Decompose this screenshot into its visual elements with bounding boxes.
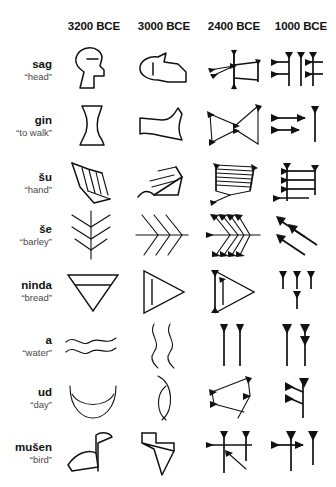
sign-shu-3000bce	[128, 155, 200, 211]
row-term: a	[46, 334, 52, 347]
row-label-ud: ud “day”	[0, 370, 54, 426]
row-term: šu	[39, 171, 52, 184]
sign-sag-3200bce	[58, 42, 130, 98]
sign-ninda-3000bce	[128, 263, 200, 319]
sign-shu-1000bce	[265, 155, 336, 211]
sign-gin-2400bce	[198, 98, 270, 154]
sign-a-3000bce	[128, 318, 200, 374]
column-header-3200-bce: 3200 BCE	[58, 20, 130, 32]
row-gloss: “barley”	[20, 236, 52, 248]
row-gloss: “to walk”	[16, 127, 52, 139]
sign-gin-3000bce	[128, 98, 200, 154]
row-term: mušen	[15, 441, 52, 454]
sign-musen-3200bce	[58, 425, 130, 481]
sign-a-3200bce	[58, 318, 130, 374]
table-row: še “barley”	[0, 207, 336, 263]
row-gloss: “bird”	[30, 454, 52, 466]
row-term: sag	[32, 58, 52, 71]
table-row: sag “head”	[0, 42, 336, 98]
sign-sag-2400bce	[198, 42, 270, 98]
sign-she-3000bce	[128, 207, 200, 263]
sign-ud-1000bce	[265, 370, 336, 426]
sign-ninda-1000bce	[265, 263, 336, 319]
sign-a-1000bce	[265, 318, 336, 374]
row-gloss: “head”	[25, 71, 52, 83]
row-gloss: “water”	[22, 347, 52, 359]
sign-sag-3000bce	[128, 42, 200, 98]
row-gloss: “hand”	[25, 184, 52, 196]
sign-musen-2400bce	[198, 425, 270, 481]
sign-gin-1000bce	[265, 98, 336, 154]
table-row: ninda “bread”	[0, 263, 336, 319]
row-label-ninda: ninda “bread”	[0, 263, 54, 319]
sign-a-2400bce	[198, 318, 270, 374]
row-gloss: “bread”	[21, 292, 52, 304]
table-row: gin “to walk”	[0, 98, 336, 154]
row-label-she: še “barley”	[0, 207, 54, 263]
row-label-shu: šu “hand”	[0, 155, 54, 211]
sign-she-2400bce	[198, 207, 270, 263]
column-header-2400-bce: 2400 BCE	[198, 20, 270, 32]
cuneiform-evolution-table: 3200 BCE 3000 BCE 2400 BCE 1000 BCE sag …	[0, 0, 336, 487]
sign-ud-3200bce	[58, 370, 130, 426]
sign-shu-3200bce	[58, 155, 130, 211]
row-label-sag: sag “head”	[0, 42, 54, 98]
sign-ud-2400bce	[198, 370, 270, 426]
sign-shu-2400bce	[198, 155, 270, 211]
row-label-a: a “water”	[0, 318, 54, 374]
sign-ninda-2400bce	[198, 263, 270, 319]
sign-gin-3200bce	[58, 98, 130, 154]
sign-she-1000bce	[265, 207, 336, 263]
table-row: ud “day”	[0, 370, 336, 426]
row-label-musen: mušen “bird”	[0, 425, 54, 481]
sign-ud-3000bce	[128, 370, 200, 426]
sign-musen-3000bce	[128, 425, 200, 481]
row-gloss: “day”	[30, 399, 52, 411]
row-term: še	[39, 223, 52, 236]
column-header-1000-bce: 1000 BCE	[265, 20, 336, 32]
table-row: mušen “bird”	[0, 425, 336, 481]
row-term: gin	[35, 114, 52, 127]
sign-ninda-3200bce	[58, 263, 130, 319]
row-label-gin: gin “to walk”	[0, 98, 54, 154]
sign-sag-1000bce	[265, 42, 336, 98]
table-row: a “water”	[0, 318, 336, 374]
column-header-3000-bce: 3000 BCE	[128, 20, 200, 32]
column-header-row: 3200 BCE 3000 BCE 2400 BCE 1000 BCE	[0, 20, 336, 38]
row-term: ninda	[21, 279, 52, 292]
table-row: šu “hand”	[0, 155, 336, 211]
row-term: ud	[38, 386, 52, 399]
sign-musen-1000bce	[265, 425, 336, 481]
sign-she-3200bce	[58, 207, 130, 263]
